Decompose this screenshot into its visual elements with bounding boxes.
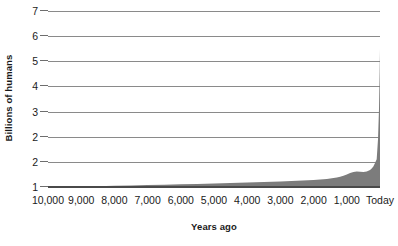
- y-axis-tick-label: 7: [22, 5, 38, 17]
- y-axis-tick-marks: [40, 0, 48, 188]
- x-axis-tick-label: Today: [350, 193, 398, 207]
- y-axis-tick-label: 2: [22, 131, 38, 143]
- y-axis-tick-mark: [40, 60, 48, 61]
- y-axis-title: Billions of humans: [2, 8, 16, 188]
- y-axis-tick-label: 3: [22, 106, 38, 118]
- y-axis-tick-labels: 76543221: [22, 0, 38, 188]
- y-axis-tick-label: 5: [22, 55, 38, 67]
- y-axis-tick-mark: [40, 111, 48, 112]
- y-axis-tick-label: 6: [22, 30, 38, 42]
- x-axis-title: Years ago: [48, 221, 380, 232]
- plot-area: [48, 11, 380, 188]
- y-axis-tick-mark: [40, 35, 48, 36]
- y-axis-tick-mark: [40, 186, 48, 187]
- y-axis-tick-mark: [40, 85, 48, 86]
- area-series-world-population: [48, 11, 380, 188]
- x-axis-tick-labels: 10,0009,0008,0007,0006,0005,0004,0003,00…: [0, 193, 398, 207]
- y-axis-tick-label: 1: [22, 181, 38, 193]
- population-growth-chart: Billions of humans 76543221 10,0009,0008…: [0, 0, 398, 246]
- y-axis-tick-mark: [40, 161, 48, 162]
- y-axis-tick-mark: [40, 136, 48, 137]
- x-axis-baseline: [48, 186, 380, 188]
- y-axis-tick-label: 4: [22, 80, 38, 92]
- y-axis-tick-label: 2: [22, 156, 38, 168]
- y-axis-tick-mark: [40, 10, 48, 11]
